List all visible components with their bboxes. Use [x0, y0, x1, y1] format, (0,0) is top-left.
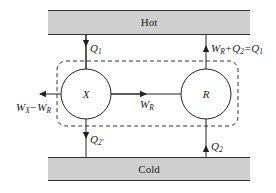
net-work-label: WX−WR	[16, 101, 51, 115]
engine-x-label: X	[82, 88, 91, 100]
q1-label: Q1	[90, 42, 102, 56]
cold-reservoir-label: Cold	[138, 163, 160, 175]
engine-r-label: R	[202, 88, 210, 100]
engine-r: R	[181, 69, 231, 119]
q2prime-label: Q2'	[90, 133, 104, 147]
hot-reservoir-label: Hot	[141, 16, 158, 28]
r-to-hot-label: WR+Q2=Q1	[211, 42, 263, 56]
wr-label: WR	[140, 98, 154, 112]
hot-reservoir: Hot	[48, 10, 250, 35]
engine-x: X	[61, 69, 111, 119]
heat-engine-refrigerator-diagram: Hot Cold X R Q1 WR+Q2=Q1 WX−WR WR Q2	[0, 0, 276, 193]
cold-reservoir: Cold	[48, 157, 250, 181]
q2-label: Q2	[211, 140, 223, 154]
